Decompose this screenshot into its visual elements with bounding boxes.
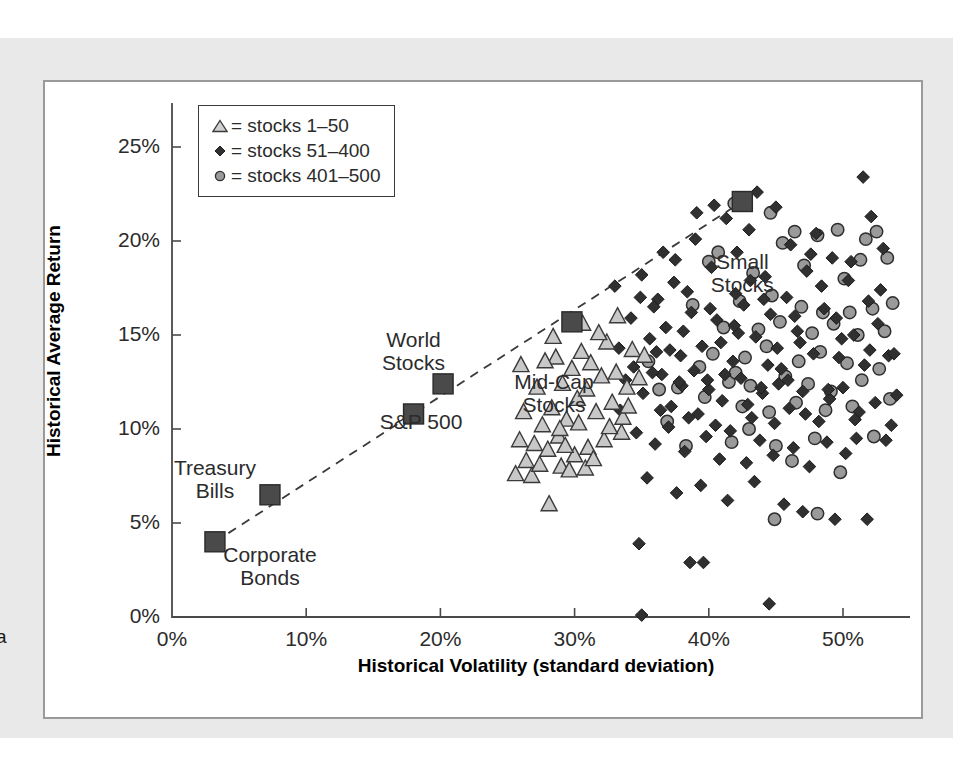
data-point (739, 351, 751, 363)
x-tick-label: 20% (400, 627, 480, 651)
data-point (700, 430, 713, 443)
data-point (763, 406, 775, 418)
data-point (839, 447, 852, 460)
data-point (860, 233, 872, 245)
triangle-icon (209, 119, 231, 133)
data-point (806, 327, 818, 339)
data-point (760, 340, 772, 352)
data-point (625, 312, 638, 325)
data-point (748, 475, 761, 488)
data-point (696, 340, 709, 353)
data-point (674, 349, 687, 362)
data-point (870, 225, 882, 237)
data-point (864, 344, 877, 357)
point-label: WorldStocks (314, 328, 514, 375)
data-point (829, 513, 842, 526)
data-point (778, 498, 791, 511)
data-point (819, 404, 831, 416)
legend-item: = stocks 1–50 (209, 113, 380, 138)
data-point (512, 432, 528, 447)
data-point (707, 348, 719, 360)
data-point (744, 380, 756, 392)
diamond-icon (209, 144, 231, 158)
data-point (831, 224, 843, 236)
data-point (562, 312, 582, 332)
data-point (709, 419, 722, 432)
data-point (690, 207, 703, 220)
data-point (834, 466, 846, 478)
legend-item: = stocks 51–400 (209, 138, 380, 163)
legend-item: = stocks 401–500 (209, 163, 380, 188)
data-point (821, 436, 834, 449)
x-tick-label: 10% (266, 627, 346, 651)
data-point (753, 434, 766, 447)
data-point (713, 453, 726, 466)
data-point (526, 436, 542, 451)
data-point (791, 325, 804, 338)
data-point (787, 442, 800, 455)
data-point (868, 430, 880, 442)
data-point (664, 344, 677, 357)
legend: = stocks 1–50 = stocks 51–400 = stocks 4… (198, 105, 395, 197)
figure-root: a 0%5%10%15%20%25% 0%10%20%30%40%50% His… (0, 0, 976, 774)
data-point (811, 507, 823, 519)
data-point (740, 457, 753, 470)
data-point (660, 321, 673, 334)
data-point (716, 395, 729, 408)
data-point (534, 417, 550, 432)
data-point (721, 494, 734, 507)
data-point (809, 432, 821, 444)
data-point (858, 359, 871, 372)
data-point (813, 415, 826, 428)
data-point (774, 316, 786, 328)
data-point (788, 225, 800, 237)
data-point (653, 383, 665, 395)
data-point (795, 301, 807, 313)
data-point (745, 411, 758, 424)
data-point (573, 343, 589, 358)
legend-item-label: = stocks 1–50 (231, 115, 349, 137)
y-tick-label: 25% (90, 134, 160, 158)
x-tick-label: 30% (535, 627, 615, 651)
data-point (856, 374, 868, 386)
point-label: TreasuryBills (115, 456, 315, 503)
data-point (763, 598, 776, 611)
data-point (591, 325, 607, 340)
data-point (610, 308, 626, 323)
data-point (874, 284, 887, 297)
legend-item-label: = stocks 51–400 (231, 140, 370, 162)
data-point (635, 609, 648, 622)
data-point (869, 396, 882, 409)
circle-icon (209, 169, 231, 183)
data-point (873, 363, 885, 375)
data-point (701, 374, 714, 387)
y-tick-label: 10% (90, 416, 160, 440)
data-point (857, 171, 870, 184)
x-tick-label: 0% (132, 627, 212, 651)
point-label: Mid-CapStocks (454, 370, 654, 417)
data-point (865, 210, 878, 223)
data-point (694, 479, 707, 492)
data-point (518, 452, 534, 467)
legend-item-label: = stocks 401–500 (231, 165, 380, 187)
data-point (880, 434, 893, 447)
data-point (643, 332, 656, 345)
data-point (545, 328, 561, 343)
data-point (704, 302, 717, 315)
y-tick-label: 5% (90, 510, 160, 534)
data-point (727, 355, 740, 368)
x-axis-title: Historical Volatility (standard deviatio… (172, 655, 900, 677)
data-point (732, 192, 752, 212)
data-point (715, 336, 728, 349)
data-point (768, 513, 780, 525)
data-point (796, 505, 809, 518)
data-point (799, 408, 812, 421)
y-tick-label: 15% (90, 322, 160, 346)
x-tick-label: 40% (669, 627, 749, 651)
y-tick-label: 0% (90, 604, 160, 628)
data-point (433, 374, 453, 394)
data-point (837, 381, 850, 394)
data-point (725, 436, 737, 448)
point-label: SmallStocks (642, 250, 842, 297)
data-point (649, 438, 662, 451)
